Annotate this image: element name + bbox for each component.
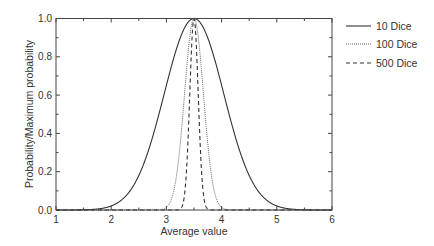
series-line-100-dice <box>56 19 332 211</box>
x-tick-label: 6 <box>329 214 335 225</box>
series-line-10-dice <box>56 19 332 211</box>
legend-label-500-dice: 500 Dice <box>376 57 418 69</box>
legend: 10 Dice 100 Dice 500 Dice <box>346 20 418 69</box>
y-tick-label: 0.8 <box>38 51 52 62</box>
legend-label-100-dice: 100 Dice <box>376 38 418 50</box>
y-tick-label: 0.6 <box>38 90 52 101</box>
x-tick-label: 4 <box>219 214 225 225</box>
x-tick-label: 3 <box>164 214 170 225</box>
legend-label-10-dice: 10 Dice <box>376 20 412 32</box>
series-line-500-dice <box>56 19 332 211</box>
y-tick-label: 0.4 <box>38 128 52 139</box>
y-tick-label: 1.0 <box>38 13 52 24</box>
x-tick-label: 1 <box>53 214 59 225</box>
x-tick-label: 2 <box>108 214 114 225</box>
plot-frame <box>56 19 332 211</box>
axis-ticks <box>56 19 332 211</box>
y-axis-title: Probability/Maximum probability <box>23 39 35 188</box>
chart: 0.00.20.40.60.81.0 123456 Average value … <box>0 0 434 246</box>
plot-curves <box>56 19 332 211</box>
y-tick-label: 0.2 <box>38 166 52 177</box>
y-tick-labels: 0.00.20.40.60.81.0 <box>38 13 52 216</box>
x-tick-labels: 123456 <box>53 214 335 225</box>
y-tick-label: 0.0 <box>38 205 52 216</box>
x-axis-title: Average value <box>161 225 228 237</box>
x-tick-label: 5 <box>274 214 280 225</box>
